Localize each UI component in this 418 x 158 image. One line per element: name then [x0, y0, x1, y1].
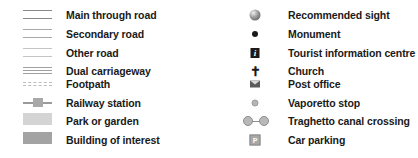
secondary-road-line-icon — [23, 25, 52, 43]
legend-label: Main through road — [66, 8, 156, 22]
footpath-dashed-line-icon — [23, 75, 52, 93]
recommended-sight-icon — [250, 10, 261, 21]
legend-label: Post office — [288, 77, 341, 91]
legend-label: Car parking — [288, 133, 345, 147]
main-road-line-icon — [23, 6, 52, 24]
legend-label: Traghetto canal crossing — [288, 114, 410, 128]
legend-label: Vaporetto stop — [288, 96, 360, 110]
legend-label: Tourist information centre — [288, 46, 415, 60]
vaporetto-stop-icon — [252, 100, 259, 107]
legend-label: Secondary road — [66, 27, 144, 41]
legend-label: Park or garden — [66, 114, 139, 128]
legend-label: Monument — [288, 27, 340, 41]
legend-label: Footpath — [66, 77, 110, 91]
park-fill-swatch-icon — [23, 112, 52, 130]
legend-label: Railway station — [66, 96, 141, 110]
other-road-line-icon — [23, 44, 52, 62]
monument-icon — [252, 31, 258, 37]
legend-label: Building of interest — [66, 133, 160, 147]
legend-label: Church — [288, 64, 324, 78]
building-fill-swatch-icon — [23, 131, 52, 149]
post-office-envelope-icon — [250, 81, 260, 88]
traghetto-crossing-icon — [243, 116, 269, 126]
railway-station-icon — [23, 94, 52, 112]
tourist-info-icon: i — [251, 48, 260, 58]
legend-label: Recommended sight — [288, 8, 390, 22]
legend-label: Other road — [66, 46, 119, 60]
car-parking-icon: P — [250, 135, 261, 146]
legend-label: Dual carriageway — [66, 64, 151, 78]
